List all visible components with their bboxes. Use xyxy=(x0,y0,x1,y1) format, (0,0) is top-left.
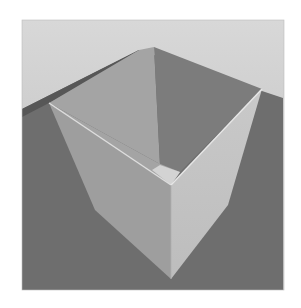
box-render xyxy=(0,0,301,308)
